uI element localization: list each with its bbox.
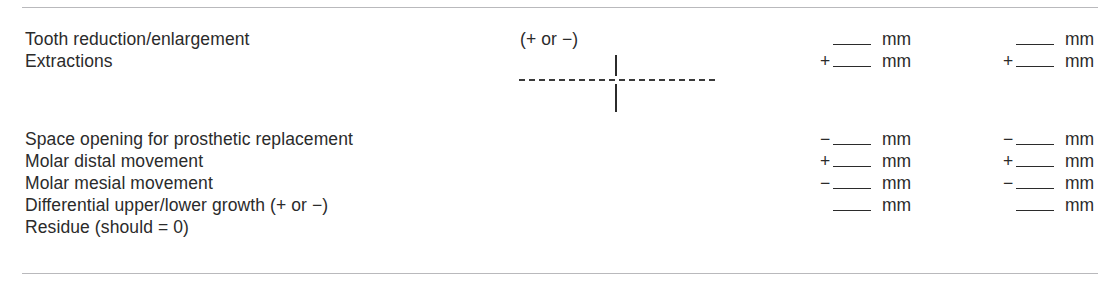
value-field-space-opening-col3[interactable]: − mm	[820, 128, 911, 150]
sign-prefix: −	[820, 128, 833, 150]
unit-label: mm	[1065, 128, 1094, 150]
row-label-tooth-reduction: Tooth reduction/enlargement	[25, 28, 250, 50]
value-field-differential-growth-col4[interactable]: mm	[1003, 194, 1094, 216]
bottom-divider	[22, 273, 1098, 274]
blank-input-line[interactable]	[833, 30, 871, 45]
value-field-differential-growth-col3[interactable]: mm	[820, 194, 911, 216]
unit-label: mm	[882, 150, 911, 172]
unit-label: mm	[1065, 172, 1094, 194]
row-label-space-opening: Space opening for prosthetic replacement	[25, 128, 353, 150]
value-field-tooth-reduction-col3[interactable]: mm	[820, 28, 911, 50]
blank-input-line[interactable]	[833, 196, 871, 211]
blank-input-line[interactable]	[1016, 52, 1054, 67]
unit-label: mm	[882, 28, 911, 50]
sign-prefix: −	[1003, 128, 1016, 150]
axis-vertical-upper-tick	[615, 55, 617, 76]
axis-horizontal-dashed-line	[519, 79, 715, 81]
unit-label: mm	[882, 172, 911, 194]
blank-input-line[interactable]	[1016, 130, 1054, 145]
sign-prefix: +	[820, 50, 833, 72]
row-label-differential-growth: Differential upper/lower growth (+ or −)	[25, 194, 328, 216]
unit-label: mm	[882, 128, 911, 150]
value-field-extractions-col4[interactable]: + mm	[1003, 50, 1094, 72]
value-field-molar-distal-col3[interactable]: + mm	[820, 150, 911, 172]
value-field-tooth-reduction-col4[interactable]: mm	[1003, 28, 1094, 50]
unit-label: mm	[1065, 50, 1094, 72]
value-field-molar-distal-col4[interactable]: + mm	[1003, 150, 1094, 172]
sign-prefix: −	[820, 172, 833, 194]
unit-label: mm	[882, 194, 911, 216]
blank-input-line[interactable]	[833, 174, 871, 189]
blank-input-line[interactable]	[1016, 30, 1054, 45]
blank-input-line[interactable]	[1016, 174, 1054, 189]
blank-input-line[interactable]	[833, 152, 871, 167]
sign-prefix: −	[1003, 172, 1016, 194]
unit-label: mm	[882, 50, 911, 72]
value-field-space-opening-col4[interactable]: − mm	[1003, 128, 1094, 150]
sign-prefix: +	[820, 150, 833, 172]
unit-label: mm	[1065, 194, 1094, 216]
unit-label: mm	[1065, 28, 1094, 50]
sign-prefix: +	[1003, 50, 1016, 72]
sign-prefix: +	[1003, 150, 1016, 172]
row-label-molar-distal-movement: Molar distal movement	[25, 150, 203, 172]
blank-input-line[interactable]	[833, 52, 871, 67]
row-label-residue: Residue (should = 0)	[25, 216, 189, 238]
top-divider	[22, 7, 1098, 8]
value-field-molar-mesial-col4[interactable]: − mm	[1003, 172, 1094, 194]
unit-label: mm	[1065, 150, 1094, 172]
value-field-molar-mesial-col3[interactable]: − mm	[820, 172, 911, 194]
blank-input-line[interactable]	[833, 130, 871, 145]
row-label-molar-mesial-movement: Molar mesial movement	[25, 172, 213, 194]
row-note-plus-or-minus: (+ or −)	[520, 28, 578, 50]
axis-cross-diagram	[519, 55, 715, 113]
axis-vertical-lower-tick	[615, 84, 617, 112]
blank-input-line[interactable]	[1016, 196, 1054, 211]
row-label-extractions: Extractions	[25, 50, 113, 72]
value-field-extractions-col3[interactable]: + mm	[820, 50, 911, 72]
blank-input-line[interactable]	[1016, 152, 1054, 167]
